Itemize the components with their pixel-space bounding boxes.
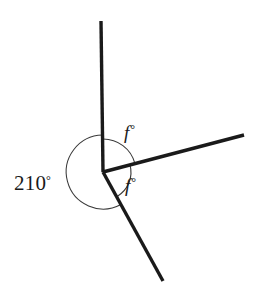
reflex-angle-label: 210° — [14, 171, 51, 195]
lower-angle-label: f° — [125, 175, 136, 196]
upper-angle-label: f° — [124, 122, 135, 143]
angle-diagram: 210° f° f° — [0, 0, 257, 300]
lower-angle-degree-symbol: ° — [131, 175, 136, 189]
reflex-angle-degree-symbol: ° — [46, 173, 51, 187]
upper-angle-arc — [103, 139, 135, 163]
upper-angle-degree-symbol: ° — [130, 122, 135, 136]
reflex-angle-value: 210 — [14, 171, 46, 195]
diagram-canvas: 210° f° f° — [0, 0, 257, 300]
reflex-angle-arc — [66, 135, 121, 209]
vertical-up-ray — [101, 21, 103, 172]
